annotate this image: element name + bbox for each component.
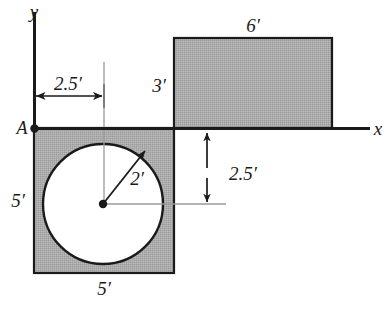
rectangle-shape — [174, 38, 332, 128]
horizontal-offset-label: 2.5′ — [54, 73, 83, 94]
vertical-offset-label: 2.5′ — [229, 163, 258, 184]
origin-label-a: A — [16, 118, 29, 138]
rectangle-height-label: 3′ — [151, 75, 167, 96]
y-axis-label: y — [28, 1, 39, 22]
square-height-label: 5′ — [11, 190, 26, 211]
x-axis-label: x — [373, 118, 383, 139]
rectangle-width-label: 6′ — [246, 15, 261, 36]
diagram-canvas: y x A 2.5′ 2.5′ 6′ 3′ 5′ 5′ 2′ — [0, 0, 392, 310]
composite-area-figure: y x A 2.5′ 2.5′ 6′ 3′ 5′ 5′ 2′ — [0, 0, 392, 310]
origin-point-a — [30, 124, 38, 132]
circle-radius-label: 2′ — [130, 168, 145, 189]
circle-center-point — [99, 200, 107, 208]
square-width-label: 5′ — [97, 278, 112, 299]
